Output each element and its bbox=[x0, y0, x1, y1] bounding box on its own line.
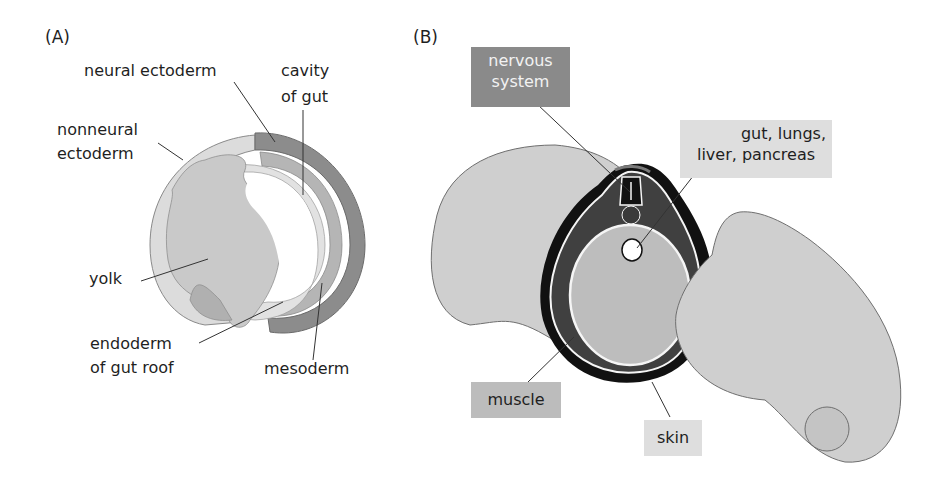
label-mesoderm: mesoderm bbox=[264, 358, 349, 379]
label-gut-lungs-liver-pancreas: gut, lungs, liver, pancreas bbox=[680, 120, 832, 178]
label-nonneural-ectoderm-line1: nonneural bbox=[57, 119, 138, 140]
label-nervous-system-line2: system bbox=[477, 71, 564, 92]
label-yolk: yolk bbox=[89, 268, 122, 289]
label-gut-line1: gut, lungs, bbox=[686, 123, 826, 144]
panel-b-letter: (B) bbox=[413, 27, 438, 47]
label-cavity-of-gut-line2: of gut bbox=[281, 86, 328, 107]
label-cavity-of-gut-line1: cavity bbox=[281, 60, 329, 81]
label-skin: skin bbox=[644, 420, 702, 456]
label-gut-line2: liver, pancreas bbox=[686, 144, 826, 165]
label-nonneural-ectoderm-line2: ectoderm bbox=[57, 143, 134, 164]
label-muscle: muscle bbox=[471, 382, 561, 418]
label-endoderm-line1: endoderm bbox=[90, 333, 172, 354]
label-neural-ectoderm: neural ectoderm bbox=[84, 60, 217, 81]
label-nervous-system-line1: nervous bbox=[477, 50, 564, 71]
label-endoderm-line2: of gut roof bbox=[90, 357, 174, 378]
panel-a-embryo bbox=[141, 82, 365, 360]
label-nervous-system: nervous system bbox=[471, 47, 570, 107]
